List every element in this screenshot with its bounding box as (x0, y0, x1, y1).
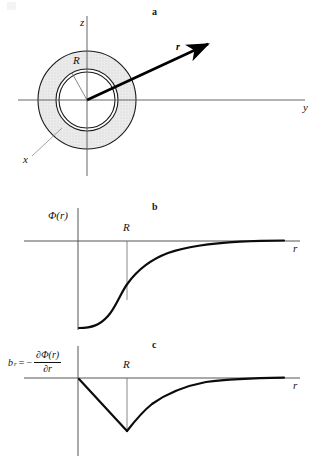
minus-sign: − (26, 357, 32, 368)
x-axis-leader-line (32, 128, 62, 156)
panel-b-x-axis-label: r (293, 242, 297, 254)
panel-c: c br = − ∂Φ(r) ∂r r R (0, 334, 324, 470)
field-symbol: b (8, 357, 13, 368)
panel-c-interior-linear-segment (79, 379, 127, 431)
panel-a-drawing (0, 0, 324, 196)
field-subscript: r (14, 360, 17, 368)
fraction-denominator: ∂r (41, 364, 54, 375)
panel-c-exterior-tail-curve (127, 378, 284, 431)
panel-b-radius-tick-label: R (123, 221, 130, 233)
fraction-numerator: ∂Φ(r) (34, 350, 61, 361)
derivative-fraction: ∂Φ(r) ∂r (34, 350, 61, 374)
z-axis-label: z (80, 16, 84, 28)
figure-root: a z y x R r b Φ(r) r R (0, 0, 324, 470)
panel-b: b Φ(r) r R (0, 196, 324, 334)
panel-b-letter: b (152, 201, 158, 212)
panel-c-y-axis-label: br = − ∂Φ(r) ∂r (8, 350, 61, 374)
y-axis-label: y (303, 101, 308, 113)
panel-c-letter: c (152, 339, 156, 350)
x-axis-label: x (23, 153, 28, 165)
panel-b-potential-curve (79, 241, 284, 329)
panel-c-radius-tick-label: R (123, 358, 130, 370)
panel-a: a z y x R r (0, 0, 324, 196)
panel-a-letter: a (152, 6, 157, 17)
radius-label: R (73, 54, 80, 66)
position-vector-label: r (176, 41, 180, 52)
equals-sign: = (19, 357, 25, 368)
panel-c-x-axis-label: r (293, 379, 297, 391)
panel-b-y-axis-label: Φ(r) (48, 209, 68, 221)
